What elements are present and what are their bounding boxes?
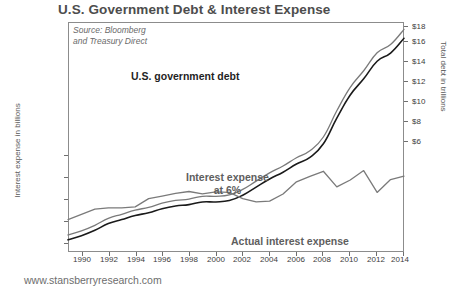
- x-tick-mark: [189, 252, 190, 256]
- left-tick-mark: [64, 221, 68, 222]
- projected-interest-series-label: Interest expense at 6%: [186, 171, 269, 197]
- x-tick-mark: [269, 252, 270, 256]
- x-tick-label: 2010: [340, 255, 358, 264]
- x-tick-mark: [349, 252, 350, 256]
- x-tick-label: 2006: [287, 255, 305, 264]
- right-tick-label: $14: [412, 57, 425, 66]
- left-tick-mark: [64, 243, 68, 244]
- x-tick-mark: [109, 252, 110, 256]
- right-axis-title: Total debt in trillions: [439, 22, 448, 132]
- x-tick-label: 1996: [153, 255, 171, 264]
- right-tick-mark: [404, 81, 408, 82]
- source-note: Source: Bloomberg and Treasury Direct: [73, 25, 147, 46]
- left-tick-mark: [64, 199, 68, 200]
- x-tick-label: 1994: [127, 255, 145, 264]
- right-tick-label: $10: [412, 97, 425, 106]
- left-tick-mark: [64, 155, 68, 156]
- right-tick-mark: [404, 26, 408, 27]
- left-tick-mark: [64, 177, 68, 178]
- right-tick-label: $6: [412, 137, 421, 146]
- x-tick-mark: [216, 252, 217, 256]
- x-tick-label: 2008: [313, 255, 331, 264]
- x-tick-mark: [82, 252, 83, 256]
- x-tick-mark: [296, 252, 297, 256]
- x-tick-label: 1998: [180, 255, 198, 264]
- x-tick-label: 1990: [73, 255, 91, 264]
- x-tick-label: 1992: [100, 255, 118, 264]
- x-tick-mark: [136, 252, 137, 256]
- chart-container: U.S. Government Debt & Interest Expense …: [0, 0, 469, 291]
- actual-interest-series-label: Actual interest expense: [231, 235, 349, 247]
- right-tick-mark: [404, 61, 408, 62]
- right-tick-label: $18: [412, 22, 425, 31]
- right-tick-mark: [404, 121, 408, 122]
- x-tick-mark: [376, 252, 377, 256]
- plot-area: [68, 22, 404, 252]
- debt-series-label: U.S. government debt: [131, 70, 240, 82]
- x-tick-label: 2002: [233, 255, 251, 264]
- x-tick-label: 2004: [260, 255, 278, 264]
- x-tick-mark: [322, 252, 323, 256]
- footer-url: www.stansberryresearch.com: [24, 274, 162, 286]
- x-tick-mark: [162, 252, 163, 256]
- chart-title: U.S. Government Debt & Interest Expense: [58, 2, 330, 17]
- right-tick-label: $12: [412, 77, 425, 86]
- x-tick-label: 2012: [367, 255, 385, 264]
- right-tick-label: $8: [412, 117, 421, 126]
- right-tick-mark: [404, 141, 408, 142]
- left-axis-title: Interest expense in billions: [13, 86, 22, 216]
- right-tick-label: $16: [412, 37, 425, 46]
- x-tick-label: 2000: [207, 255, 225, 264]
- x-tick-label: 2014: [391, 255, 409, 264]
- x-tick-mark: [403, 252, 404, 256]
- right-tick-mark: [404, 41, 408, 42]
- right-tick-mark: [404, 101, 408, 102]
- x-tick-mark: [242, 252, 243, 256]
